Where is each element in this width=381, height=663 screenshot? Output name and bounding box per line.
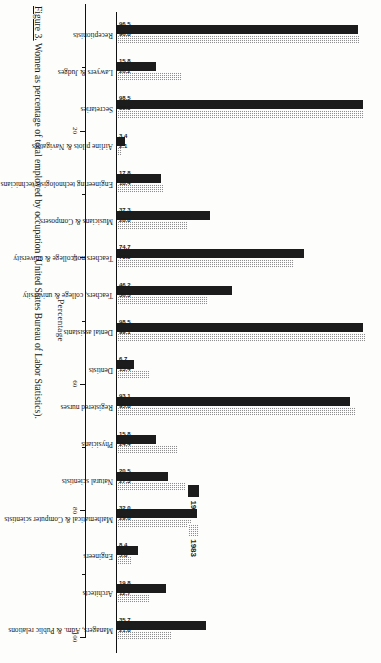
figure-caption-text: Women as percentage of total employed by… (33, 43, 44, 419)
bar-value-label: 37.3 (119, 207, 131, 213)
bar-1983: 99.1 (117, 333, 365, 342)
bar-value-label: 15.8 (119, 58, 131, 64)
bar-group: 35.721.8 (117, 612, 367, 649)
minor-tick (83, 447, 87, 448)
bar-group: 3.42.1 (117, 128, 367, 165)
legend-label-1983: 1983 (189, 539, 198, 557)
bar-value-label: 21.8 (119, 627, 131, 633)
bar-value-label: 24.4 (119, 441, 131, 447)
bar-group: 96.596.8 (117, 16, 367, 53)
bar-1995: 98.5 (117, 323, 363, 332)
bar-value-label: 6.7 (119, 356, 127, 362)
figure-caption: Figure 3. Women as percentage of total e… (32, 6, 44, 635)
percentage-scale: 20406080100 Percentage Figure 3. Women a… (0, 0, 86, 641)
bar-group: 19.812.7 (117, 575, 367, 612)
bar-group: 15.826.2 (117, 53, 367, 90)
bar-1995: 98.5 (117, 100, 363, 109)
bar-value-label: 95.8 (119, 403, 131, 409)
bar-value-label: 96.5 (119, 21, 131, 27)
bar-value-label: 74.7 (119, 244, 131, 250)
minor-tick (83, 194, 87, 195)
bar-1983: 27.3 (117, 482, 185, 491)
bar-1983: 28.0 (117, 221, 187, 230)
major-tick (80, 131, 86, 132)
tick-label: 40 (71, 254, 79, 261)
bar-value-label: 12.7 (119, 590, 131, 596)
bar-value-label: 19.8 (119, 580, 131, 586)
bar-value-label: 17.8 (119, 170, 131, 176)
bar-1983: 12.7 (117, 594, 149, 603)
bar-group: 74.770.9 (117, 239, 367, 276)
bar-value-label: 96.8 (119, 31, 131, 37)
chart-legend: 1995 1983 (188, 485, 199, 557)
bar-value-label: 5.8 (119, 552, 127, 558)
bar-1983: 18.4 (117, 184, 163, 193)
legend-swatch-1995-icon (188, 485, 199, 497)
bar-value-label: 46.2 (119, 282, 131, 288)
bar-value-label: 18.4 (119, 180, 131, 186)
bar-group: 98.599.0 (117, 90, 367, 127)
bar-chart-plot-area: 96.596.815.826.298.599.03.42.117.818.437… (75, 12, 367, 653)
category-label: Engineers (83, 552, 113, 559)
tick-label: 20 (71, 127, 79, 134)
bar-group: 37.328.0 (117, 202, 367, 239)
major-tick (80, 510, 86, 511)
bar-value-label: 98.5 (119, 95, 131, 101)
bar-group: 15.824.4 (117, 426, 367, 463)
category-label: Physicians (81, 440, 113, 447)
bar-group: 46.236.3 (117, 277, 367, 314)
minor-tick (83, 67, 87, 68)
bars-container: 96.596.815.826.298.599.03.42.117.818.437… (117, 12, 367, 653)
bar-value-label: 70.9 (119, 254, 131, 260)
bar-group: 8.45.8 (117, 537, 367, 574)
bar-value-label: 28.0 (119, 217, 131, 223)
figure-container: 96.596.815.826.298.599.03.42.117.818.437… (0, 0, 381, 663)
bar-value-label: 13.4 (119, 366, 131, 372)
tick-label: 100 (71, 632, 79, 643)
bar-value-label: 2.1 (119, 143, 127, 149)
bar-1983: 2.1 (117, 147, 122, 156)
minor-tick (83, 574, 87, 575)
bar-1983: 24.4 (117, 445, 178, 454)
major-tick (80, 384, 86, 385)
major-tick (80, 257, 86, 258)
bar-value-label: 20.5 (119, 468, 131, 474)
bar-group: 20.527.3 (117, 463, 367, 500)
category-label: Architects (83, 589, 113, 596)
category-label: Dentists (89, 366, 113, 373)
bar-1983: 29.6 (117, 519, 191, 528)
bar-value-label: 32.0 (119, 505, 131, 511)
bar-1983: 21.8 (117, 631, 172, 640)
tick-label: 80 (71, 507, 79, 514)
bar-1995: 93.1 (117, 397, 350, 406)
bar-1983: 5.8 (117, 556, 132, 565)
bar-1983: 13.4 (117, 370, 151, 379)
bar-value-label: 99.0 (119, 105, 131, 111)
bar-1983: 70.9 (117, 259, 294, 268)
bar-value-label: 93.1 (119, 393, 131, 399)
bar-value-label: 29.6 (119, 515, 131, 521)
bar-value-label: 8.4 (119, 542, 127, 548)
bar-group: 98.599.1 (117, 314, 367, 351)
major-tick (80, 637, 86, 638)
axis-title: Percentage (56, 0, 66, 641)
bar-1995: 96.5 (117, 25, 358, 34)
bar-1983: 36.3 (117, 296, 208, 305)
bar-value-label: 26.2 (119, 68, 131, 74)
bar-value-label: 27.3 (119, 478, 131, 484)
bar-group: 93.195.8 (117, 388, 367, 425)
bar-1983: 96.8 (117, 35, 359, 44)
bar-value-label: 98.5 (119, 319, 131, 325)
minor-tick (83, 321, 87, 322)
bar-value-label: 99.1 (119, 329, 131, 335)
bar-group: 17.818.4 (117, 165, 367, 202)
bar-1983: 95.8 (117, 407, 357, 416)
legend-item-1995: 1995 (188, 485, 199, 518)
tick-label: 60 (71, 380, 79, 387)
bar-group: 32.029.6 (117, 500, 367, 537)
bar-value-label: 3.4 (119, 133, 127, 139)
bar-1995: 46.2 (117, 286, 233, 295)
bar-value-label: 35.7 (119, 617, 131, 623)
legend-swatch-1983-icon (188, 524, 199, 536)
bar-1995: 74.7 (117, 249, 304, 258)
